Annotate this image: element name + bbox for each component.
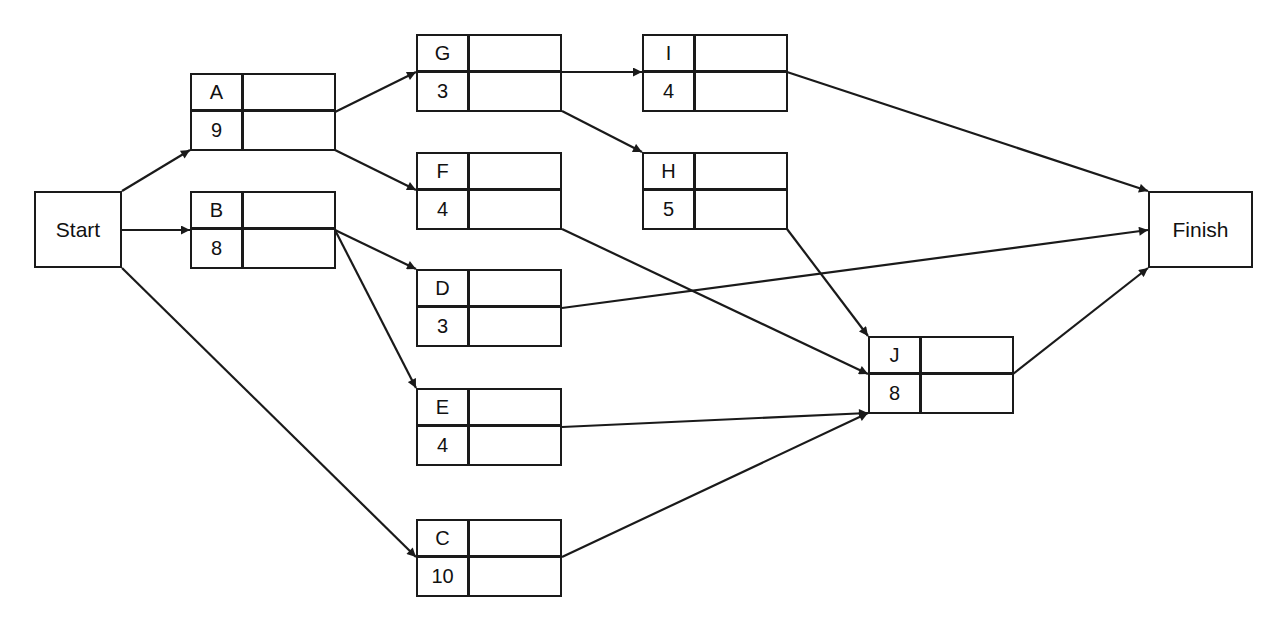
task-duration: 10 [418, 558, 470, 595]
task-duration: 8 [192, 230, 244, 267]
finish-label: Finish [1172, 218, 1228, 242]
task-duration: 9 [192, 112, 244, 149]
task-duration: 3 [418, 308, 470, 345]
arrow-b-to-e [335, 230, 416, 388]
task-id: B [192, 193, 244, 230]
task-late-cell [470, 73, 560, 110]
task-late-cell [244, 230, 334, 267]
task-early-cell [922, 338, 1012, 375]
task-early-cell [470, 36, 560, 73]
task-duration: 3 [418, 73, 470, 110]
task-id: A [192, 75, 244, 112]
task-id: F [418, 154, 470, 191]
task-id: E [418, 390, 470, 427]
task-late-cell [470, 427, 560, 464]
task-node-b: B 8 [190, 191, 336, 269]
task-node-d: D 3 [416, 269, 562, 347]
task-duration: 4 [644, 73, 696, 110]
task-duration: 4 [418, 191, 470, 228]
task-early-cell [244, 75, 334, 112]
task-node-g: G 3 [416, 34, 562, 112]
arrow-g-to-h [562, 111, 642, 152]
task-duration: 5 [644, 191, 696, 228]
task-late-cell [696, 73, 786, 110]
task-duration: 4 [418, 427, 470, 464]
task-late-cell [244, 112, 334, 149]
arrow-b-to-d [335, 230, 416, 269]
task-early-cell [470, 271, 560, 308]
finish-node: Finish [1148, 191, 1253, 268]
arrow-i-to-finish [787, 72, 1148, 191]
task-id: C [418, 521, 470, 558]
task-early-cell [244, 193, 334, 230]
arrow-a-to-f [335, 150, 416, 190]
task-id: J [870, 338, 922, 375]
start-label: Start [56, 218, 100, 242]
task-late-cell [696, 191, 786, 228]
task-early-cell [470, 390, 560, 427]
task-id: D [418, 271, 470, 308]
arrow-start-to-a [122, 150, 190, 191]
task-node-e: E 4 [416, 388, 562, 466]
task-id: I [644, 36, 696, 73]
arrow-start-to-c [122, 268, 416, 557]
arrow-e-to-j [562, 413, 868, 427]
arrow-a-to-g [335, 72, 416, 112]
task-node-c: C 10 [416, 519, 562, 597]
task-node-a: A 9 [190, 73, 336, 151]
task-early-cell [696, 36, 786, 73]
task-node-f: F 4 [416, 152, 562, 230]
task-late-cell [922, 375, 1012, 412]
task-late-cell [470, 308, 560, 345]
arrow-j-to-finish [1013, 268, 1148, 374]
task-early-cell [470, 154, 560, 191]
arrow-c-to-j [562, 413, 868, 557]
start-node: Start [34, 191, 122, 268]
task-duration: 8 [870, 375, 922, 412]
task-id: G [418, 36, 470, 73]
task-late-cell [470, 558, 560, 595]
arrow-d-to-finish [562, 230, 1148, 308]
task-node-i: I 4 [642, 34, 788, 112]
task-late-cell [470, 191, 560, 228]
task-id: H [644, 154, 696, 191]
task-early-cell [470, 521, 560, 558]
task-early-cell [696, 154, 786, 191]
task-node-j: J 8 [868, 336, 1014, 414]
task-node-h: H 5 [642, 152, 788, 230]
arrow-h-to-j [787, 229, 868, 336]
